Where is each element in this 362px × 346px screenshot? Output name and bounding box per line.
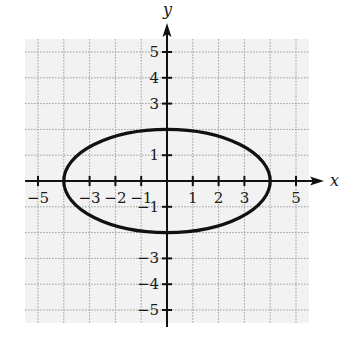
x-tick-label: 1 [188, 189, 198, 207]
y-tick-label: 4 [149, 69, 159, 87]
x-tick-label: −3 [79, 189, 101, 207]
y-tick-label: −4 [137, 275, 159, 293]
x-tick-label: 3 [240, 189, 250, 207]
y-tick-label: 1 [149, 146, 159, 164]
x-axis-label: x [330, 171, 339, 190]
y-tick-label: 5 [149, 43, 159, 61]
y-tick-label: −3 [137, 249, 159, 267]
y-tick-label: 3 [149, 95, 159, 113]
y-tick-label: −1 [137, 198, 159, 216]
x-tick-label: 2 [214, 189, 224, 207]
x-tick-label: −5 [27, 189, 49, 207]
x-tick-label: 5 [291, 189, 301, 207]
y-tick-label: −5 [137, 301, 159, 319]
x-tick-label: −2 [104, 189, 126, 207]
y-axis-label: y [162, 0, 173, 19]
ellipse-graph: −5−3−2−11235 5431−1−3−4−5 x y [0, 0, 362, 346]
